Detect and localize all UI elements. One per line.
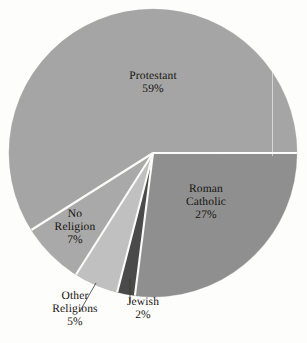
- slice-label-protestant-percent: 59%: [93, 83, 213, 96]
- slice-label-roman-catholic: Roman Catholic 27%: [163, 183, 249, 223]
- slice-label-no-religion-line2: Religion: [35, 221, 115, 234]
- slice-label-other-religions-line1: Other: [32, 290, 118, 303]
- slice-label-other-religions: Other Religions 5%: [32, 290, 118, 330]
- slice-label-no-religion: No Religion 7%: [35, 208, 115, 248]
- slice-label-no-religion-line1: No: [35, 208, 115, 221]
- slice-label-other-religions-percent: 5%: [32, 316, 118, 329]
- slice-label-roman-catholic-percent: 27%: [163, 209, 249, 222]
- pie-slice-roman-catholic: [135, 153, 297, 297]
- pie-chart-figure: Protestant 59% Roman Catholic 27% No Rel…: [0, 0, 307, 343]
- slice-label-protestant-name: Protestant: [93, 70, 213, 83]
- slice-label-jewish: Jewish 2%: [112, 296, 174, 322]
- slice-label-protestant: Protestant 59%: [93, 70, 213, 96]
- slice-label-jewish-name: Jewish: [112, 296, 174, 309]
- slice-label-jewish-percent: 2%: [112, 309, 174, 322]
- slice-label-no-religion-percent: 7%: [35, 234, 115, 247]
- slice-label-other-religions-line2: Religions: [32, 303, 118, 316]
- slice-label-roman-catholic-line1: Roman: [163, 183, 249, 196]
- slice-label-roman-catholic-line2: Catholic: [163, 196, 249, 209]
